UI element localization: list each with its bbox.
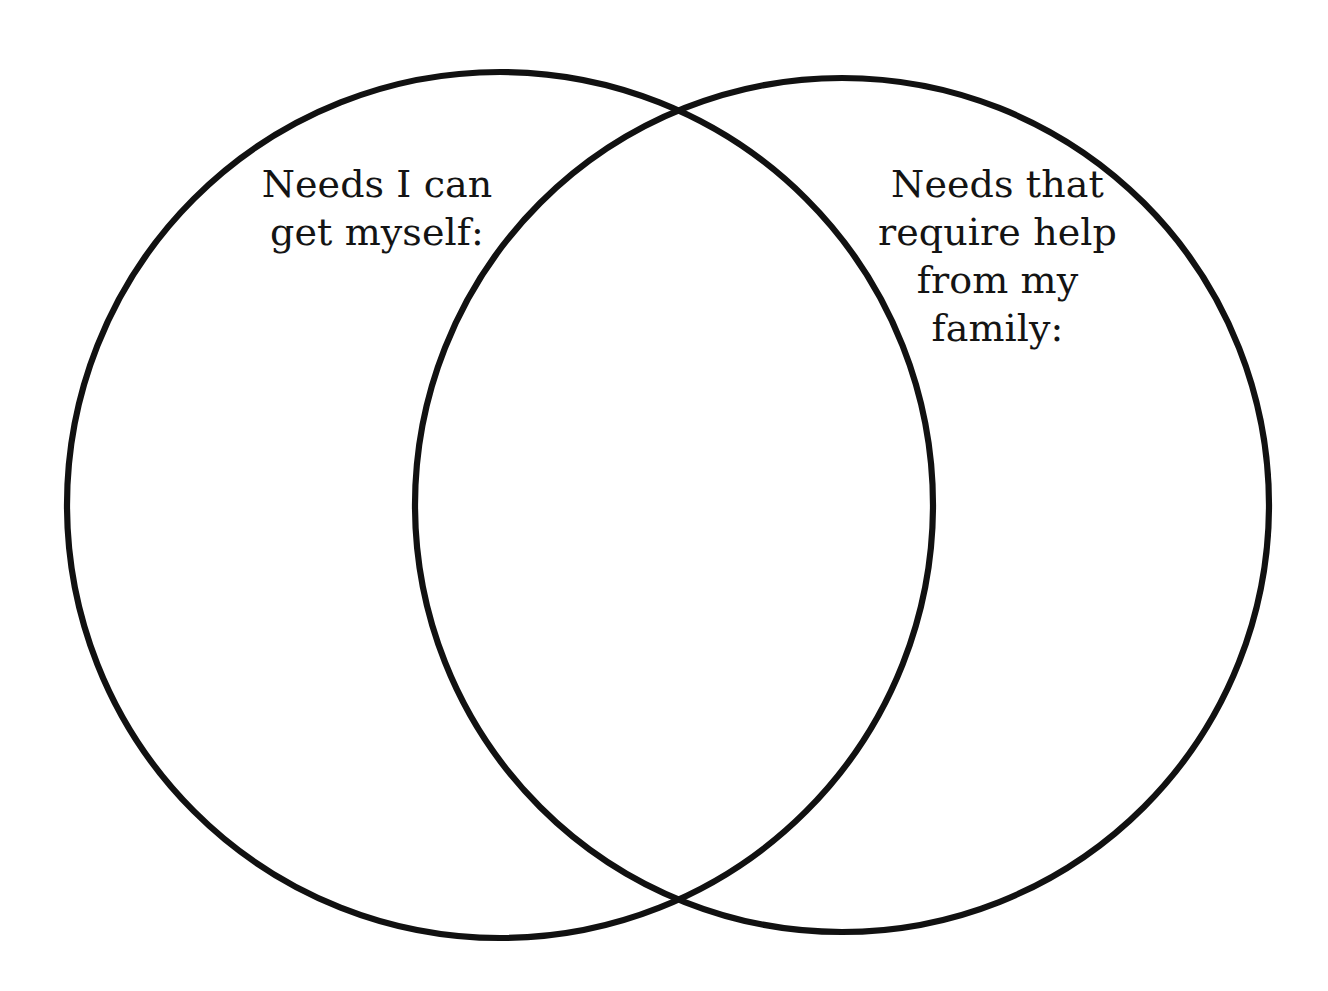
- left-circle-label: Needs I can get myself:: [232, 160, 522, 256]
- right-circle-label: Needs that require help from my family:: [865, 160, 1130, 352]
- venn-diagram-canvas: [0, 0, 1328, 991]
- venn-diagram-page: Needs I can get myself: Needs that requi…: [0, 0, 1328, 991]
- right-circle-outline[interactable]: [415, 78, 1269, 932]
